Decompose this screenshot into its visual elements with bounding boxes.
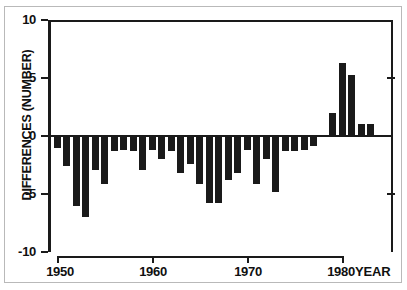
bar-1983: [367, 124, 374, 136]
bar-1969: [234, 136, 241, 173]
bar-1963: [177, 136, 184, 173]
chart-page: 10 5 0 -5 -10 1950 1960 1970 1980 DIFFER…: [0, 0, 407, 290]
bar-1970: [244, 136, 251, 150]
bar-1956: [111, 136, 118, 151]
bar-1972: [263, 136, 270, 159]
bar-1971: [253, 136, 260, 184]
bar-1957: [120, 136, 127, 150]
bar-1955: [101, 136, 108, 184]
bar-1962: [168, 136, 175, 151]
bar-1979: [329, 113, 336, 136]
bar-1975: [291, 136, 298, 151]
bar-1965: [196, 136, 203, 184]
bar-1960: [149, 136, 156, 150]
bar-1961: [158, 136, 165, 159]
bar-series: [0, 0, 407, 290]
bar-1981: [348, 75, 355, 136]
bar-1964: [187, 136, 194, 164]
bar-1958: [130, 136, 137, 151]
bar-1967: [215, 136, 222, 203]
bar-1950: [54, 136, 61, 148]
bar-1974: [282, 136, 289, 151]
bar-1952: [73, 136, 80, 206]
bar-1951: [63, 136, 70, 166]
bar-1953: [82, 136, 89, 217]
bar-1959: [139, 136, 146, 170]
bar-1968: [225, 136, 232, 180]
bar-1973: [272, 136, 279, 192]
bar-1976: [301, 136, 308, 150]
bar-1954: [92, 136, 99, 170]
bar-1982: [358, 124, 365, 136]
bar-1966: [206, 136, 213, 203]
bar-1977: [310, 136, 317, 146]
bar-1980: [339, 63, 346, 136]
